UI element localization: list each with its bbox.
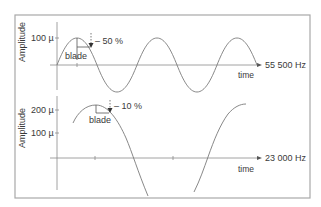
x-axis-label: time [238, 164, 254, 174]
vibration-diagram: Amplitude 100 µ 55 500 Hz time – 50 % bl… [0, 0, 321, 207]
y-axis-label: Amplitude [17, 108, 27, 148]
percent-label: – 50 % [95, 36, 123, 46]
frequency-label: 55 500 Hz [265, 60, 307, 70]
frequency-label: 23 000 Hz [265, 153, 307, 163]
blade-label: blade [65, 51, 87, 61]
arrow-icon [257, 63, 262, 67]
blade-label: blade [89, 115, 111, 125]
x-axis-label: time [238, 70, 254, 80]
y-axis-label: Amplitude [17, 22, 27, 62]
y-tick-label: 100 µ [31, 128, 54, 138]
panel-bottom: Amplitude 200 µ 100 µ 23 000 Hz time – 1… [17, 96, 307, 196]
arrow-icon [257, 156, 262, 160]
y-tick-label: 100 µ [31, 33, 54, 43]
waveform [194, 104, 246, 192]
percent-label: – 10 % [114, 101, 142, 111]
panel-top: Amplitude 100 µ 55 500 Hz time – 50 % bl… [17, 22, 307, 92]
figure-frame [15, 15, 310, 198]
y-tick-label: 200 µ [31, 105, 54, 115]
